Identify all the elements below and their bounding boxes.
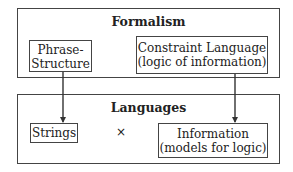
edges-layer <box>0 0 293 172</box>
